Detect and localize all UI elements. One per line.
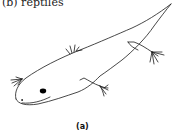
- nostril: [22, 100, 23, 101]
- front-upper-leg: [11, 77, 22, 86]
- eye: [40, 89, 46, 94]
- salamander-illustration: [0, 0, 174, 137]
- body-lower-outline: [16, 4, 171, 105]
- body-upper-outline: [15, 4, 171, 99]
- figure-caption: (a): [76, 122, 89, 131]
- front-lower-leg: [80, 78, 108, 96]
- back-lower-leg: [128, 42, 164, 64]
